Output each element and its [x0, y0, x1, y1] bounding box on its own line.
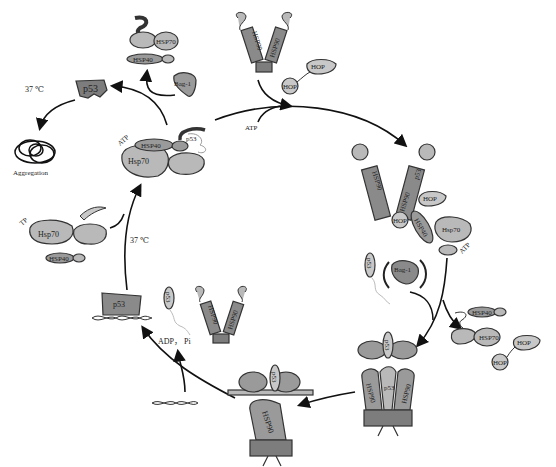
label-hop-right-a: HOP	[423, 195, 437, 203]
bag1-top: Bag-1	[174, 73, 196, 97]
label-hsp70-release: HSP70	[479, 334, 499, 342]
aggregation-icon	[15, 140, 55, 163]
arrow-dna-in	[178, 352, 185, 392]
arrow-bag1-in	[410, 292, 433, 320]
label-bag1-mid-right: Bag-1	[394, 266, 412, 274]
label-hsp40-left: HSP40	[49, 255, 69, 263]
bag1-mid-right: Bag-1	[384, 260, 426, 288]
label-p53-free: p53	[164, 292, 172, 303]
label-adp-pi: ADP， Pi	[158, 337, 191, 346]
free-p53-bottom: p53	[164, 287, 190, 335]
arrow-to-misfolded	[113, 86, 167, 125]
hsp90-dimer-open: HSP90 HSP90	[236, 12, 291, 72]
incoming-hsp70: TP Hsp70 HSP40	[18, 207, 106, 263]
chaperone-cycle-diagram: p53 37 ℃ Aggregation HSP70 HSP40 Bag-1 H…	[0, 0, 556, 467]
label-p53-dna: p53	[113, 300, 125, 309]
label-hop-top-b: HOP	[283, 83, 297, 91]
label-hsp40-release: HSP40	[472, 309, 492, 317]
label-hop-right-b: HOP	[393, 217, 407, 225]
label-p53-mid-right: p53	[365, 258, 373, 269]
hsp90-closed: p53 HSP90	[228, 365, 313, 466]
label-p53-bottom-right: p53	[384, 384, 395, 392]
p53-on-dna: p53	[92, 293, 152, 320]
label-p53-bottom-center: p53	[270, 372, 278, 383]
label-bag1-top: Bag-1	[174, 80, 192, 88]
hsp90-p53-loaded: p53 HSP90 p53 HSP90	[358, 332, 417, 436]
released-hsp70-top: HSP70 HSP40	[127, 17, 178, 64]
label-p53-misfolded: p53	[83, 83, 98, 94]
label-p53-bottom-right-top: p53	[383, 340, 391, 351]
label-atp-complex: ATP	[116, 133, 131, 147]
arrow-release-hsp70	[147, 72, 175, 96]
hsp70-hsp40-p53-complex: HSP40 Hsp70 p53 ATP	[116, 129, 205, 177]
free-p53-mid-right: p53	[365, 253, 390, 304]
label-atp-right: ATP	[458, 241, 473, 256]
arrow-to-hsp90-loading	[215, 106, 405, 145]
label-p53-complex: p53	[186, 135, 197, 143]
arrow-release	[443, 300, 460, 328]
label-hsp40-complex: HSP40	[141, 142, 161, 150]
label-hop-release-b: HOP	[493, 359, 507, 367]
label-hsp70-complex: Hsp70	[128, 157, 149, 166]
released-chaperones-right: HSP40 HSP70 HOP HOP	[451, 307, 540, 370]
label-atp-top-arrow: ATP	[245, 124, 258, 132]
dna-free	[152, 402, 198, 405]
hsp90-loading-complex: HSP90 HSP90 p53 HOP HOP HSP40 Hsp70 ATP	[352, 144, 472, 255]
arrow-to-aggregation	[40, 100, 75, 128]
hop-top: HOP HOP	[282, 60, 336, 95]
label-hsp70-top: HSP70	[156, 38, 176, 46]
misfolded-p53: p53	[76, 80, 107, 98]
label-aggregation: Aggregation	[13, 169, 48, 177]
label-temp-left: 37 ℃	[130, 236, 149, 245]
label-temp-top-left: 37 ℃	[25, 85, 44, 94]
label-tp-left: TP	[18, 216, 29, 227]
label-hsp70-left: Hsp70	[38, 230, 59, 239]
label-hsp70-right: Hsp70	[442, 226, 461, 234]
label-hop-release-a: HOP	[517, 339, 531, 347]
arrow-hsp70-join	[110, 214, 124, 228]
label-hop-top-a: HOP	[311, 63, 325, 71]
label-hsp40-top: HSP40	[133, 56, 153, 64]
hsp90-free: HSP90 HSP90	[196, 286, 247, 343]
